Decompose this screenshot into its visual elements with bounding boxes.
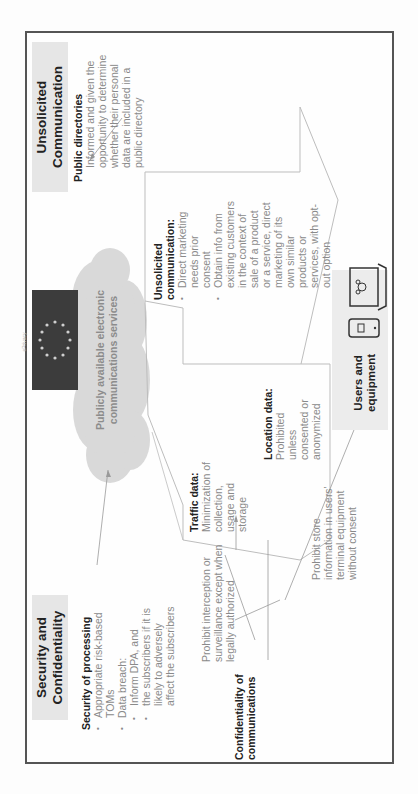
eu-stars-icon xyxy=(32,290,78,390)
location-data-block: Location data: Prohibited unless consent… xyxy=(262,388,322,460)
sub-bullet-item: the subscribers if it islikely to advers… xyxy=(140,606,176,730)
security-title: Security and xyxy=(34,617,50,698)
unsolicited-title-box: Unsolicited Communication xyxy=(32,42,68,192)
laptop-icon xyxy=(348,262,390,312)
traffic-data-block: Traffic data: Minimization of collection… xyxy=(188,462,248,532)
storage-text: Prohibit store information in users' ter… xyxy=(310,486,358,580)
smartphone-icon xyxy=(348,318,380,338)
bullet-item: Data breach: xyxy=(116,606,128,730)
cloud-label-line: communications services xyxy=(107,275,120,445)
users-equipment-label: Users and equipment xyxy=(352,354,378,412)
security-title: Confidentiality xyxy=(50,611,66,705)
unsolicited-title: Unsolicited xyxy=(34,81,50,154)
cloud-label-line: Publicly available electronic xyxy=(94,275,107,445)
bullet-item: Appropriate risk-basedTOMs xyxy=(92,606,116,730)
sub-bullet-item: Inform DPA, and xyxy=(128,606,140,730)
bullet-item: Direct marketing needs prior consent xyxy=(176,201,212,300)
flag-label: ePrivacy xyxy=(21,326,27,358)
public-dir-heading: Public directories xyxy=(72,55,84,182)
unsolicited-title: Communication xyxy=(50,66,66,168)
confidentiality-heading: Confidentiality of communications xyxy=(233,674,257,760)
location-heading: Location data: xyxy=(262,388,274,460)
interception-text: Prohibit interception or surveillance ex… xyxy=(200,545,236,662)
security-processing-block: Security of processing Appropriate risk-… xyxy=(80,606,176,730)
unsolicited-arrow-block: Unsolicited communication: Direct market… xyxy=(152,201,332,300)
bullet-item: Obtain info from existing customers in t… xyxy=(212,201,332,300)
eu-flag xyxy=(32,290,78,390)
cloud-label: Publicly available electronic communicat… xyxy=(94,275,120,445)
security-title-box: Security and Confidentiality xyxy=(32,595,68,720)
processing-heading: Security of processing xyxy=(80,606,92,730)
public-directories-block: Public directories Informed and given th… xyxy=(72,55,144,182)
traffic-heading: Traffic data: xyxy=(188,462,200,532)
